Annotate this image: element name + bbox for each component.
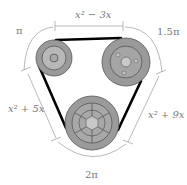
top-right-pulley [102,38,150,86]
belt-top-segment [56,38,121,40]
pulley-diagram: x² − 3x π 1.5π x² + 5x x² + 9x 2π [0,0,187,185]
bottom-pulley [65,96,119,150]
top-length-label: x² − 3x [75,9,112,20]
arc-top-left-label: π [16,25,23,36]
bolt-hole-icon [134,59,138,63]
top-left-pulley [36,40,72,76]
left-length-label: x² + 5x [8,103,45,114]
arc-bottom-label: 2π [85,169,98,180]
arc-top-right-label: 1.5π [157,26,180,37]
hub-icon [50,54,58,62]
hub-icon [121,57,131,67]
right-length-label: x² + 9x [148,109,185,120]
belt-right-segment [118,81,141,130]
bolt-hole-icon [116,53,120,57]
bolt-hole-icon [122,71,126,75]
